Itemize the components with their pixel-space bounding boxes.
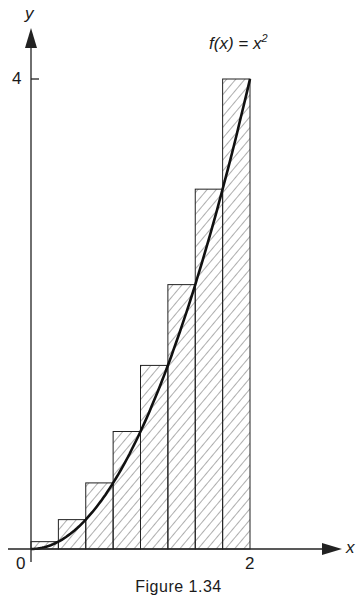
riemann-sum-plot — [0, 0, 357, 607]
x-tick-label-2: 2 — [245, 554, 254, 574]
y-tick-label-4: 4 — [12, 69, 21, 89]
x-axis-label: x — [346, 538, 355, 558]
x-axis-arrow — [322, 543, 342, 555]
bar — [141, 365, 168, 549]
bar — [113, 432, 140, 550]
bar — [223, 79, 250, 549]
hatched-bars — [31, 79, 250, 549]
function-label: f(x) = x2 — [209, 32, 268, 54]
y-axis-arrow — [25, 28, 37, 48]
figure-caption: Figure 1.34 — [0, 578, 357, 596]
y-axis-label: y — [25, 4, 34, 24]
x-tick-label-0: 0 — [16, 554, 25, 574]
